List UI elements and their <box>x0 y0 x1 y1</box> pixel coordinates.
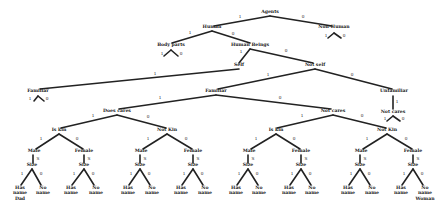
tree-leaf: Noname <box>89 185 103 195</box>
edge-label: 1 <box>325 33 328 38</box>
leaf-line: name <box>394 190 408 195</box>
leaf-line: name <box>36 190 50 195</box>
edge-label: 1 <box>130 171 133 176</box>
edge-label: S <box>144 156 147 161</box>
edge-label: 1 <box>267 72 270 77</box>
tree-node-size_g: Size <box>355 162 366 167</box>
tree-node-notkin_b: Not Kin <box>377 127 398 132</box>
leaf-line: No <box>39 185 46 190</box>
edge-label: 1 <box>40 136 43 141</box>
tree-node-size_c: Size <box>135 162 146 167</box>
tree-nodes: AgentsHumanNon-HumanBody partsHuman Bein… <box>27 9 423 167</box>
tree-edge <box>167 134 192 149</box>
tree-node-female_c: Female <box>292 148 311 153</box>
leaf-line: name <box>418 190 432 195</box>
tree-node-male_b: Male <box>135 148 148 153</box>
edge-label: 0 <box>76 136 79 141</box>
leaf-line: name <box>64 190 78 195</box>
edge-label: 1 <box>29 96 32 101</box>
tree-node-size_h: Size <box>408 162 419 167</box>
edge-label: 1 <box>291 171 294 176</box>
tree-node-iskin_b: Is kin <box>269 127 284 132</box>
leaf-line: Woman <box>414 196 435 201</box>
edge-label: 0 <box>180 51 183 56</box>
tree-node-iskin_a: Is kin <box>52 127 67 132</box>
tree-leaves: HasnameDadNonameHasnameNonameHasnameNona… <box>13 185 435 201</box>
leaf-line: No <box>148 185 155 190</box>
tree-leaf: Noname <box>252 185 266 195</box>
tree-edge <box>387 134 412 149</box>
tree-node-size_e: Size <box>243 162 254 167</box>
leaf-line: No <box>368 185 375 190</box>
edge-label: S <box>88 156 91 161</box>
leaf-line: name <box>229 190 243 195</box>
leaf-line: No <box>421 185 428 190</box>
tree-edge <box>328 33 334 38</box>
tree-node-human: Human <box>203 24 223 29</box>
tree-node-size_a: Size <box>27 162 38 167</box>
tree-edge <box>214 16 270 26</box>
leaf-line: Has <box>284 185 294 190</box>
edge-label: 1 <box>147 136 150 141</box>
tree-node-notcares_u: Not cares <box>381 109 406 114</box>
edge-label: 0 <box>147 114 150 119</box>
edge-label: S <box>197 156 200 161</box>
tree-edge <box>277 115 333 128</box>
tree-leaf: Noname <box>36 185 50 195</box>
tree-edge <box>119 95 216 109</box>
leaf-line: Has <box>231 185 241 190</box>
edge-label: 1 <box>161 51 164 56</box>
leaf-line: name <box>89 190 103 195</box>
leaf-line: name <box>282 190 296 195</box>
tree-node-female_a: Female <box>75 148 94 153</box>
tree-node-humanbeings: Human Beings <box>231 42 270 48</box>
tree-leaf: NonameWoman <box>414 185 435 201</box>
tree-node-male_c: Male <box>243 148 256 153</box>
tree-leaf: Noname <box>198 185 212 195</box>
tree-edge <box>38 96 44 101</box>
tree-node-notcares: Not cares <box>321 108 346 113</box>
tree-leaf: Noname <box>145 185 159 195</box>
tree-leaf: Hasname <box>282 185 296 195</box>
edge-label: 1 <box>159 95 162 100</box>
tree-node-female_b: Female <box>184 148 203 153</box>
tree-node-male_a: Male <box>28 148 41 153</box>
edge-label: 1 <box>350 171 353 176</box>
leaf-line: No <box>308 185 315 190</box>
edge-label: 1 <box>384 116 387 121</box>
tree-node-nonhuman: Non-Human <box>318 24 350 29</box>
tree-node-familiar_self: Familiar <box>27 88 49 93</box>
tree-edge <box>164 50 171 56</box>
edge-label: 1 <box>73 171 76 176</box>
edge-label: 1 <box>396 99 399 104</box>
tree-leaf: Noname <box>305 185 319 195</box>
tree-node-agents: Agents <box>260 9 279 15</box>
tree-node-notkin_a: Not Kin <box>157 127 178 132</box>
leaf-line: name <box>121 190 135 195</box>
edge-label: 1 <box>403 171 406 176</box>
leaf-line: No <box>201 185 208 190</box>
edge-label: 0 <box>293 136 296 141</box>
tree-leaf: Hasname <box>174 185 188 195</box>
edge-label: S <box>417 156 420 161</box>
edge-label: 1 <box>240 49 243 54</box>
leaf-line: Has <box>396 185 406 190</box>
tree-node-bodyparts: Body parts <box>157 42 185 48</box>
tree-edge <box>61 115 117 128</box>
edge-label: 0 <box>148 171 151 176</box>
edge-label: 1 <box>255 136 258 141</box>
tree-leaf: Hasname <box>341 185 355 195</box>
edge-label: 0 <box>232 31 235 36</box>
tree-node-size_d: Size <box>188 162 199 167</box>
tree-leaf: Noname <box>365 185 379 195</box>
edge-label: S <box>37 156 40 161</box>
tree-edge <box>387 116 393 121</box>
leaf-line: name <box>365 190 379 195</box>
edge-label: 0 <box>285 48 288 53</box>
edge-label: 1 <box>183 171 186 176</box>
tree-edge <box>334 33 341 38</box>
tree-edge <box>40 69 239 89</box>
edge-label: 0 <box>343 33 346 38</box>
edge-label: 1 <box>301 113 304 118</box>
tree-node-unfamiliar: Unfamiliar <box>380 88 408 93</box>
